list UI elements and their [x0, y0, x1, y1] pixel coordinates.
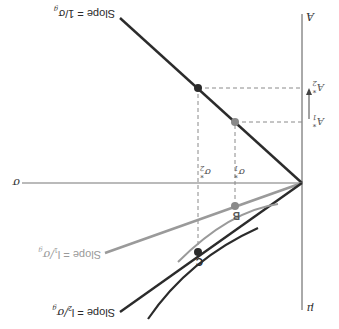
indifference-curve-1 [178, 204, 278, 262]
axis-label-mu: μ [307, 302, 314, 315]
point-C [194, 248, 202, 256]
axis-label-sigma: σ [12, 176, 20, 189]
point-B [231, 202, 239, 210]
slope-l2-line [120, 183, 302, 312]
label-slope-l1: Slope = l1/σg [38, 246, 101, 261]
label-slope-l2: Slope = l2/σg [52, 304, 115, 319]
tick-A1: A1* [312, 113, 325, 128]
tick-sigma2: σ2* [199, 164, 211, 179]
tick-A2: A2* [312, 79, 325, 94]
tick-sigma1: σ1* [234, 164, 245, 179]
axis-label-A: A [306, 10, 315, 23]
point-A1 [231, 118, 239, 126]
slope-l1-line [105, 183, 302, 253]
arrow-icon [306, 88, 312, 119]
label-slope-1: Slope = 1/σg [53, 5, 115, 20]
label-C: C [196, 256, 203, 267]
point-A2 [194, 84, 202, 92]
label-B: B [233, 210, 240, 221]
indifference-curve-2 [148, 228, 258, 319]
slope-1-line [120, 18, 302, 183]
portfolio-diagram: A μ σ A2* A1* σ1* σ2* B C Slope = 1/σg S… [0, 0, 339, 329]
